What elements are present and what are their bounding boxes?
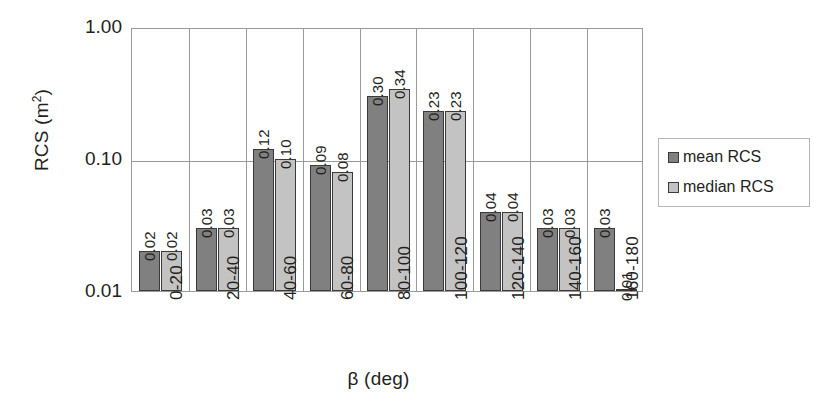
x-axis-tick-label: 80-100	[395, 246, 415, 300]
x-axis-title-text: β (deg)	[348, 368, 410, 389]
vertical-gridline	[189, 29, 190, 291]
vertical-gridline	[416, 29, 417, 291]
y-axis-tick-label: 0.10	[11, 148, 131, 170]
vertical-gridline	[360, 29, 361, 291]
bar-value-label: 0.02	[164, 232, 179, 262]
x-axis-tick-label: 20-40	[224, 256, 244, 300]
y-axis-title: RCS (m2)	[30, 50, 54, 210]
y-axis-tick-label: 0.01	[11, 280, 131, 302]
bar-value-label: 0.23	[426, 92, 441, 122]
bar-value-label: 0.34	[392, 69, 407, 99]
bar-value-label: 0.04	[505, 192, 520, 222]
bar-value-label: 0.08	[335, 152, 350, 182]
chart-legend: mean RCS median RCS	[658, 138, 810, 207]
bar-value-label: 0.03	[540, 208, 555, 238]
legend-item-mean-rcs: mean RCS	[668, 148, 802, 166]
y-axis-tick-label: 1.00	[11, 16, 131, 38]
bar-mean	[253, 149, 274, 291]
bar-value-label: 0.30	[370, 76, 385, 106]
legend-label-median: median RCS	[683, 178, 774, 196]
x-axis-tick-label: 0-20	[167, 265, 187, 300]
bar-mean	[367, 96, 388, 291]
vertical-gridline	[530, 29, 531, 291]
bar-value-label: 0.03	[562, 208, 577, 238]
bar-value-label: 0.10	[278, 139, 293, 169]
bar-mean	[480, 212, 501, 291]
x-axis-tick-label: 140-160	[566, 236, 586, 300]
bar-value-label: 0.03	[597, 208, 612, 238]
bar-mean	[423, 111, 444, 291]
vertical-gridline	[246, 29, 247, 291]
bar-value-label: 0.03	[199, 208, 214, 238]
legend-swatch-mean-icon	[668, 152, 679, 163]
vertical-gridline	[587, 29, 588, 291]
x-axis-tick-label: 60-80	[338, 256, 358, 300]
legend-label-mean: mean RCS	[683, 148, 761, 166]
chart-root: RCS (m2) 1.000.100.01 0.020.020.030.030.…	[0, 0, 821, 407]
vertical-gridline	[473, 29, 474, 291]
x-axis-tick-label: 120-140	[509, 236, 529, 300]
x-axis-tick-label: 100-120	[452, 236, 472, 300]
bar-value-label: 0.04	[483, 192, 498, 222]
bar-mean	[310, 165, 331, 291]
bar-value-label: 0.03	[221, 208, 236, 238]
bar-value-label: 0.23	[448, 92, 463, 122]
x-axis-tick-label: 40-60	[281, 256, 301, 300]
x-axis-tick-label: 160-180	[623, 236, 643, 300]
bar-value-label: 0.09	[313, 145, 328, 175]
x-axis-title: β (deg)	[0, 368, 821, 390]
bar-value-label: 0.02	[142, 232, 157, 262]
legend-item-median-rcs: median RCS	[668, 178, 802, 196]
bar-value-label: 0.12	[256, 129, 271, 159]
vertical-gridline	[303, 29, 304, 291]
legend-swatch-median-icon	[668, 182, 679, 193]
